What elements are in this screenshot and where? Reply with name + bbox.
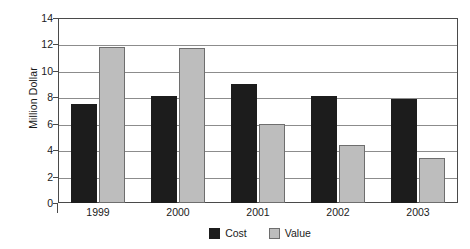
y-axis-tick-label: 14 [31,13,53,24]
y-axis-tick-label: 12 [31,39,53,50]
x-axis-tick-labels: 19992000200120022003 [58,206,458,222]
y-axis-tick-label: 2 [31,172,53,183]
bar-value-1999 [99,47,125,203]
legend-item-value: Value [269,227,311,239]
y-axis-tick-label: 8 [31,92,53,103]
legend-item-cost: Cost [209,227,247,239]
x-axis-tick-label: 2001 [218,206,298,218]
bar-value-2002 [339,145,365,203]
y-axis-tick-label: 10 [31,66,53,77]
legend-label: Cost [225,227,247,239]
legend-swatch-icon [269,228,280,239]
legend-label: Value [285,227,311,239]
bar-cost-2002 [311,96,337,203]
bars-layer [58,18,458,203]
bar-cost-2003 [391,99,417,203]
x-axis-tick-label: 1999 [58,206,138,218]
bar-value-2001 [259,124,285,203]
bar-cost-2000 [151,96,177,203]
legend-swatch-icon [209,228,220,239]
bar-cost-1999 [71,104,97,203]
y-axis-tick-label: 4 [31,145,53,156]
x-axis-tick-label: 2002 [298,206,378,218]
bar-value-2003 [419,158,445,203]
y-axis-tick-labels: 02468101214 [30,0,53,249]
bar-value-2000 [179,48,205,203]
y-axis-tick-label: 6 [31,119,53,130]
x-axis-tick-label: 2003 [378,206,458,218]
y-axis-tick-label: 0 [31,198,53,209]
bar-chart: Million Dollar 02468101214 1999200020012… [0,0,470,249]
bar-cost-2001 [231,84,257,203]
x-axis-tick-label: 2000 [138,206,218,218]
chart-legend: CostValue [0,227,470,239]
